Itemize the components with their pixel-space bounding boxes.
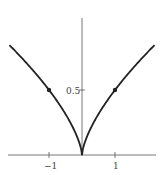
x-tick-label: 1 [113,161,119,171]
x-tick-label: −1 [44,161,57,171]
point-pos1 [113,88,117,92]
plot-area: −1 1 0.5 [0,0,164,175]
point-neg1 [47,88,51,92]
y-tick-label: 0.5 [66,86,81,96]
chart: −1 1 0.5 [0,0,164,175]
